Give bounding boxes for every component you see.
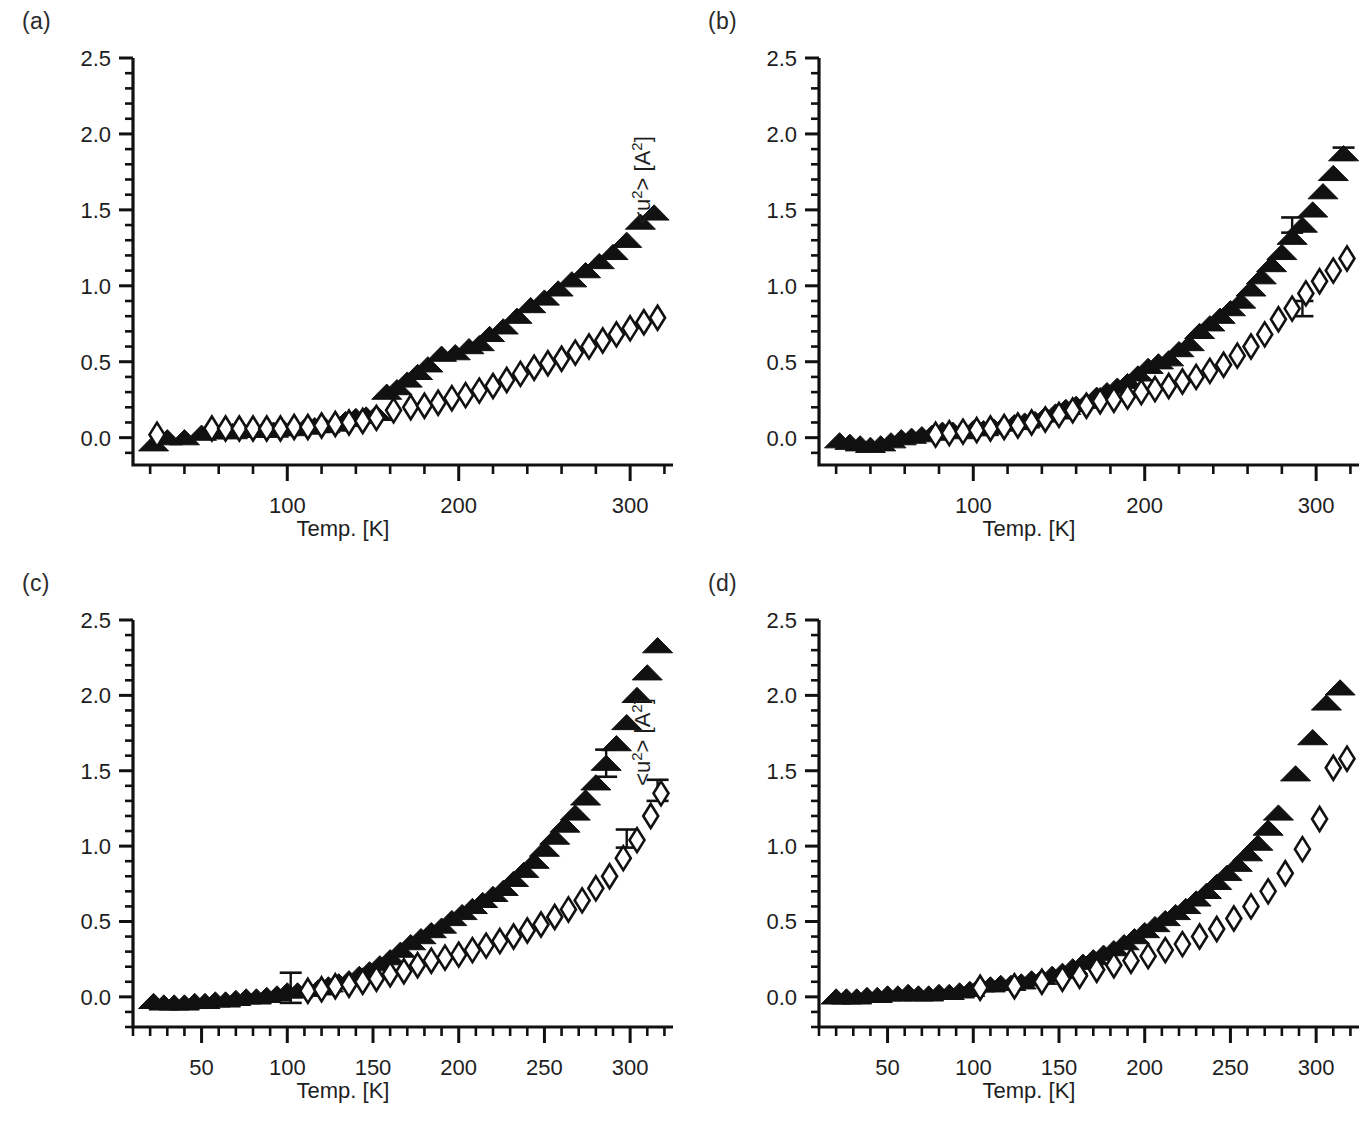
figure-multi-panel-msd-vs-temperature: (a) <u2> [A2] Temp. [K] 0.00.51.01.52.02… (0, 0, 1372, 1147)
y-tick-label: 2.5 (766, 46, 797, 71)
data-series-filled-triangle (821, 680, 1355, 1004)
y-tick-label: 1.5 (80, 759, 111, 784)
x-tick-label: 100 (955, 493, 992, 518)
y-tick-label: 1.5 (766, 759, 797, 784)
y-tick-label: 0.0 (80, 426, 111, 451)
y-tick-label: 0.5 (80, 909, 111, 934)
data-series-open-diamond (973, 747, 1355, 1000)
panel-d: (d) <u2> [A2] Temp. [K] 0.00.51.01.52.02… (686, 562, 1372, 1136)
y-tick-label: 1.0 (766, 834, 797, 859)
x-tick-label: 200 (440, 493, 477, 518)
panel-a: (a) <u2> [A2] Temp. [K] 0.00.51.01.52.02… (0, 0, 686, 574)
x-tick-label: 50 (189, 1055, 213, 1080)
y-tick-label: 1.5 (766, 198, 797, 223)
y-tick-label: 2.5 (766, 608, 797, 633)
y-tick-label: 2.0 (80, 122, 111, 147)
panel-c: (c) <u2> [A2] Temp. [K] 0.00.51.01.52.02… (0, 562, 686, 1136)
y-tick-label: 1.0 (766, 274, 797, 299)
y-tick-label: 1.5 (80, 198, 111, 223)
x-tick-label: 250 (526, 1055, 563, 1080)
y-tick-label: 0.5 (766, 350, 797, 375)
y-tick-label: 2.0 (766, 122, 797, 147)
x-tick-label: 200 (1126, 1055, 1163, 1080)
y-tick-label: 2.0 (766, 683, 797, 708)
x-tick-label: 300 (612, 493, 649, 518)
x-tick-label: 300 (612, 1055, 649, 1080)
data-series-filled-triangle (139, 638, 673, 1010)
y-tick-label: 2.0 (80, 683, 111, 708)
x-tick-label: 250 (1212, 1055, 1249, 1080)
y-tick-label: 1.0 (80, 274, 111, 299)
y-tick-label: 0.0 (80, 985, 111, 1010)
x-tick-label: 100 (269, 493, 306, 518)
plot-area-b: 0.00.51.01.52.02.5100200300 (686, 0, 1372, 574)
y-tick-label: 1.0 (80, 834, 111, 859)
y-axis-label-b: <u2> [A2] (628, 70, 656, 290)
x-tick-label: 50 (875, 1055, 899, 1080)
plot-area-c: 0.00.51.01.52.02.550100150200250300 (0, 562, 686, 1136)
data-series-filled-triangle (139, 205, 670, 451)
y-axis-label-d: <u2> [A2] (628, 632, 656, 852)
x-tick-label: 200 (1126, 493, 1163, 518)
y-tick-label: 0.0 (766, 426, 797, 451)
y-tick-label: 0.5 (766, 909, 797, 934)
x-tick-label: 100 (955, 1055, 992, 1080)
y-tick-label: 0.5 (80, 350, 111, 375)
x-tick-label: 150 (355, 1055, 392, 1080)
x-tick-label: 150 (1041, 1055, 1078, 1080)
x-tick-label: 300 (1298, 493, 1335, 518)
x-tick-label: 300 (1298, 1055, 1335, 1080)
panel-b: (b) <u2> [A2] Temp. [K] 0.00.51.01.52.02… (686, 0, 1372, 574)
y-tick-label: 2.5 (80, 46, 111, 71)
x-tick-label: 200 (440, 1055, 477, 1080)
x-tick-label: 100 (269, 1055, 306, 1080)
data-series-open-diamond (928, 246, 1354, 446)
plot-area-a: 0.00.51.01.52.02.5100200300 (0, 0, 686, 574)
y-tick-label: 2.5 (80, 608, 111, 633)
y-tick-label: 0.0 (766, 985, 797, 1010)
plot-area-d: 0.00.51.01.52.02.550100150200250300 (686, 562, 1372, 1136)
